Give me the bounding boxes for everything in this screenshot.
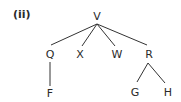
node-q: Q <box>46 49 55 60</box>
edge-r-h <box>148 63 165 83</box>
node-r: R <box>145 49 153 60</box>
node-v: V <box>93 11 101 22</box>
node-f: F <box>47 88 53 99</box>
node-w: W <box>112 49 123 60</box>
node-x: X <box>76 49 84 60</box>
edge-v-r <box>97 24 147 45</box>
node-h: H <box>164 87 172 98</box>
edge-r-g <box>137 63 148 82</box>
tree-edges <box>0 0 181 102</box>
node-g: G <box>131 87 140 98</box>
